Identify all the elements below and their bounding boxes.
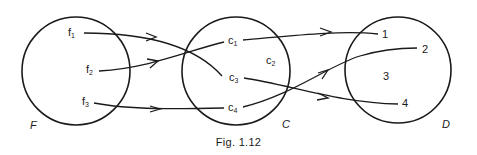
- element-d4: 4: [402, 98, 408, 109]
- element-d1: 1: [382, 29, 388, 40]
- set-f-circle: [22, 17, 130, 125]
- element-d3: 3: [383, 71, 389, 82]
- figure-caption: Fig. 1.12: [0, 136, 477, 148]
- element-d2: 2: [422, 44, 428, 55]
- element-f3: f3: [82, 96, 89, 108]
- edge-f2-c1: [99, 42, 224, 71]
- element-f1: f1: [68, 27, 75, 39]
- element-c4: c4: [228, 102, 237, 114]
- function-composition-diagram: f1 f2 f3 c1 c2 c3 c4 1 2 3 4 F C D Fig. …: [0, 0, 477, 155]
- diagram-graphics: [0, 0, 477, 155]
- edge-c1-1: [243, 28, 378, 40]
- set-f-label: F: [30, 120, 37, 131]
- element-c1: c1: [228, 35, 237, 47]
- set-c-label: C: [282, 119, 290, 130]
- set-d-label: D: [442, 119, 450, 130]
- arrow-head-icon: [320, 28, 331, 36]
- edge-f1-c3: [84, 33, 222, 76]
- element-c3: c3: [229, 72, 238, 84]
- element-c2: c2: [266, 55, 275, 67]
- element-f2: f2: [86, 64, 93, 76]
